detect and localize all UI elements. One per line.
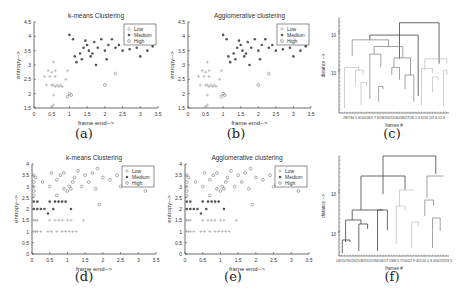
svg-text:2.5: 2.5: [119, 111, 126, 117]
svg-text:3: 3: [28, 62, 31, 68]
svg-text:10: 10: [331, 71, 337, 76]
svg-text:3.5: 3.5: [308, 111, 315, 117]
legend-item-high: High: [287, 38, 298, 44]
svg-text:0.5: 0.5: [202, 111, 209, 117]
caption-d: (d): [69, 269, 99, 284]
svg-text:0: 0: [26, 251, 29, 257]
svg-text:1: 1: [66, 257, 69, 263]
svg-text:0.5: 0.5: [22, 240, 29, 246]
svg-text:2.5: 2.5: [270, 257, 277, 263]
svg-text:2.5: 2.5: [178, 76, 185, 82]
svg-text:4.5: 4.5: [24, 19, 31, 25]
svg-text:1: 1: [222, 111, 225, 117]
y-axis-label: entropy-->: [13, 195, 19, 223]
svg-text:4.5: 4.5: [178, 19, 185, 25]
caption-c: (c): [377, 126, 407, 141]
svg-text:1.5: 1.5: [22, 217, 29, 223]
panel-a: 00.511.522.533.51.522.533.544.5k-means C…: [0, 0, 155, 150]
svg-text:3: 3: [137, 257, 140, 263]
svg-text:0: 0: [338, 230, 340, 234]
leaf-labels: 14/15/70/19/21/8/22/21/94/16/17 23/8 5 7…: [336, 259, 452, 263]
svg-text:1.5: 1.5: [24, 105, 31, 111]
chart-title: Agglomerative clustering: [214, 12, 286, 20]
svg-text:0: 0: [184, 257, 187, 263]
svg-text:3.5: 3.5: [22, 172, 29, 178]
svg-text:3.5: 3.5: [178, 48, 185, 54]
panel-c: 101100frames #distance -->28/730 5 6/10/…: [315, 0, 460, 150]
svg-text:2: 2: [179, 206, 182, 212]
svg-text:1: 1: [219, 257, 222, 263]
leaf-labels: 28/730 5 6/10/18/1 7 6/18/20/22/40/18/27…: [343, 116, 445, 120]
svg-text:1: 1: [338, 31, 340, 35]
svg-text:4: 4: [182, 33, 185, 39]
svg-text:1: 1: [179, 229, 182, 235]
panel-d: 00.511.522.533.500.511.522.533.54k-means…: [0, 150, 155, 301]
chart-title: k-means Clustering: [66, 154, 122, 162]
legend-item-high: High: [285, 180, 296, 186]
svg-text:4: 4: [28, 33, 31, 39]
svg-text:0.5: 0.5: [46, 257, 53, 263]
svg-text:2.5: 2.5: [175, 195, 182, 201]
panel-b: 00.511.522.533.51.522.533.544.5Agglomera…: [155, 0, 315, 150]
svg-text:1.5: 1.5: [175, 217, 182, 223]
chart-title: Agglomerative clustering: [211, 154, 283, 162]
svg-text:3: 3: [26, 184, 29, 190]
svg-text:0: 0: [187, 111, 190, 117]
svg-text:2: 2: [101, 257, 104, 263]
svg-text:10: 10: [331, 33, 337, 38]
svg-text:2.5: 2.5: [24, 76, 31, 82]
svg-text:0.5: 0.5: [48, 111, 55, 117]
svg-text:0: 0: [179, 251, 182, 257]
svg-text:1.5: 1.5: [178, 105, 185, 111]
svg-text:3: 3: [290, 257, 293, 263]
caption-f: (f): [377, 269, 407, 284]
caption-e: (e): [218, 269, 248, 284]
svg-text:2.5: 2.5: [22, 195, 29, 201]
panel-e: 00.511.522.533.500.511.522.533.54Agglome…: [155, 150, 315, 301]
svg-text:2: 2: [26, 206, 29, 212]
svg-text:2: 2: [103, 111, 106, 117]
caption-a: (a): [69, 126, 99, 141]
svg-text:3: 3: [292, 111, 295, 117]
svg-text:10: 10: [331, 232, 337, 237]
svg-text:0: 0: [31, 257, 34, 263]
caption-b: (b): [221, 126, 251, 141]
svg-text:3.5: 3.5: [24, 48, 31, 54]
svg-text:0: 0: [33, 111, 36, 117]
svg-text:1: 1: [26, 229, 29, 235]
svg-text:2.5: 2.5: [272, 111, 279, 117]
y-axis-label: entropy-->: [166, 195, 172, 223]
panel-f: 101100frames #distance -->14/15/70/19/21…: [315, 150, 460, 301]
svg-text:3: 3: [179, 184, 182, 190]
svg-text:4: 4: [26, 161, 29, 167]
svg-text:1.5: 1.5: [84, 111, 91, 117]
svg-text:0.5: 0.5: [199, 257, 206, 263]
svg-text:1.5: 1.5: [235, 257, 242, 263]
svg-text:10: 10: [331, 192, 337, 197]
legend-item-high: High: [134, 38, 145, 44]
svg-text:2: 2: [254, 257, 257, 263]
svg-text:3.5: 3.5: [175, 172, 182, 178]
svg-text:1: 1: [68, 111, 71, 117]
svg-text:1.5: 1.5: [237, 111, 244, 117]
svg-text:2: 2: [257, 111, 260, 117]
svg-text:2: 2: [182, 91, 185, 97]
svg-text:3: 3: [182, 62, 185, 68]
svg-text:2: 2: [28, 91, 31, 97]
svg-text:0.5: 0.5: [175, 240, 182, 246]
legend-item-high: High: [132, 180, 143, 186]
y-axis-label: entropy-->: [15, 51, 21, 79]
svg-text:3.5: 3.5: [306, 257, 313, 263]
svg-text:2.5: 2.5: [117, 257, 124, 263]
y-axis-label: distance -->: [321, 194, 326, 218]
svg-text:4: 4: [179, 161, 182, 167]
svg-text:3: 3: [139, 111, 142, 117]
svg-text:1.5: 1.5: [82, 257, 89, 263]
y-axis-label: distance -->: [321, 53, 326, 77]
chart-title: k-means Clustering: [68, 12, 124, 20]
y-axis-label: entropy-->: [169, 51, 175, 79]
